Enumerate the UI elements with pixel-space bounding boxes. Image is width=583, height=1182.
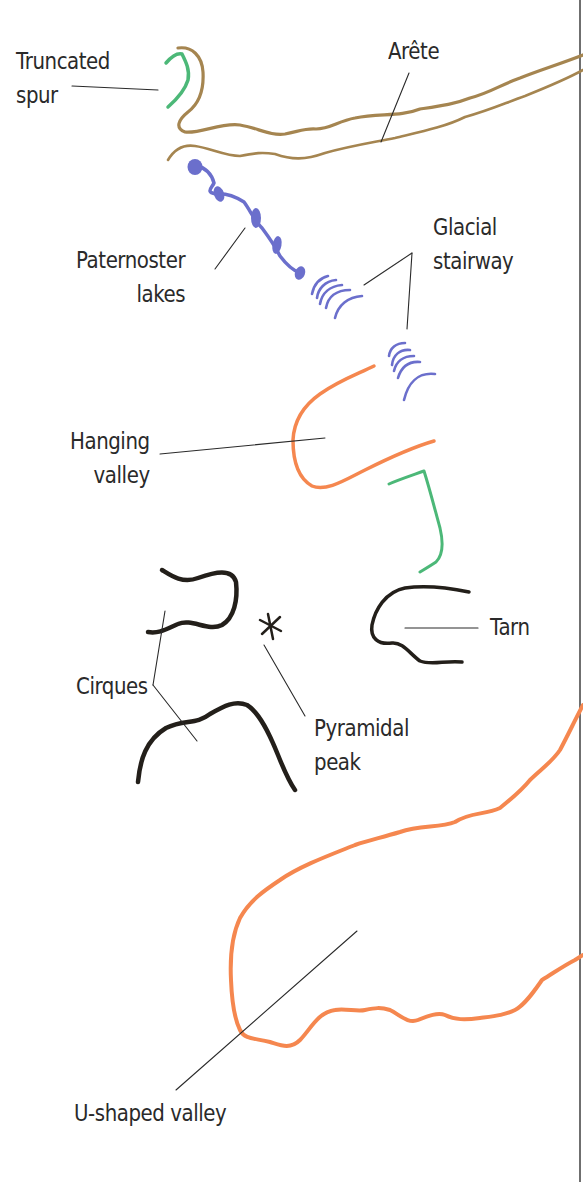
glacial-stairway-lower-symbol [389, 343, 435, 400]
label-u-shaped-valley: U-shaped valley [74, 1096, 226, 1130]
label-tarn: Tarn [490, 610, 530, 644]
glacial-stairway-upper-symbol [312, 276, 362, 318]
label-glacial-stairway: Glacial stairway [433, 210, 513, 278]
label-cirques: Cirques [76, 669, 148, 703]
glacial-stairway-leader-line-2 [407, 253, 412, 329]
paternoster-lakes-symbol [188, 159, 308, 281]
cirques-leader-line-1 [153, 611, 165, 685]
glacial-stairway-leader-line-1 [364, 253, 412, 285]
label-truncated-spur: Truncated spur [16, 44, 110, 112]
pyramidal-peak-asterisk-icon [260, 614, 281, 639]
paternoster-lakes-leader-line [215, 228, 245, 269]
cirque-lower-symbol [138, 703, 295, 790]
cirque-upper-symbol [148, 570, 236, 632]
hanging-valley-leader-line [160, 438, 325, 454]
tarn-symbol [372, 587, 469, 663]
label-arete: Arête [388, 34, 439, 68]
arete-upper-ridge [178, 48, 583, 135]
pyramidal-peak-leader-line [264, 645, 305, 716]
truncated-spur-symbol [166, 54, 189, 107]
hanging-valley-symbol [293, 366, 434, 488]
truncated-spur-bracket-symbol [389, 471, 442, 572]
label-paternoster-lakes: Paternoster lakes [76, 243, 185, 311]
label-hanging-valley: Hanging valley [70, 424, 150, 492]
label-pyramidal-peak: Pyramidal peak [314, 711, 409, 779]
glacial-landforms-diagram [0, 0, 583, 1182]
arete-leader-line [381, 73, 409, 142]
